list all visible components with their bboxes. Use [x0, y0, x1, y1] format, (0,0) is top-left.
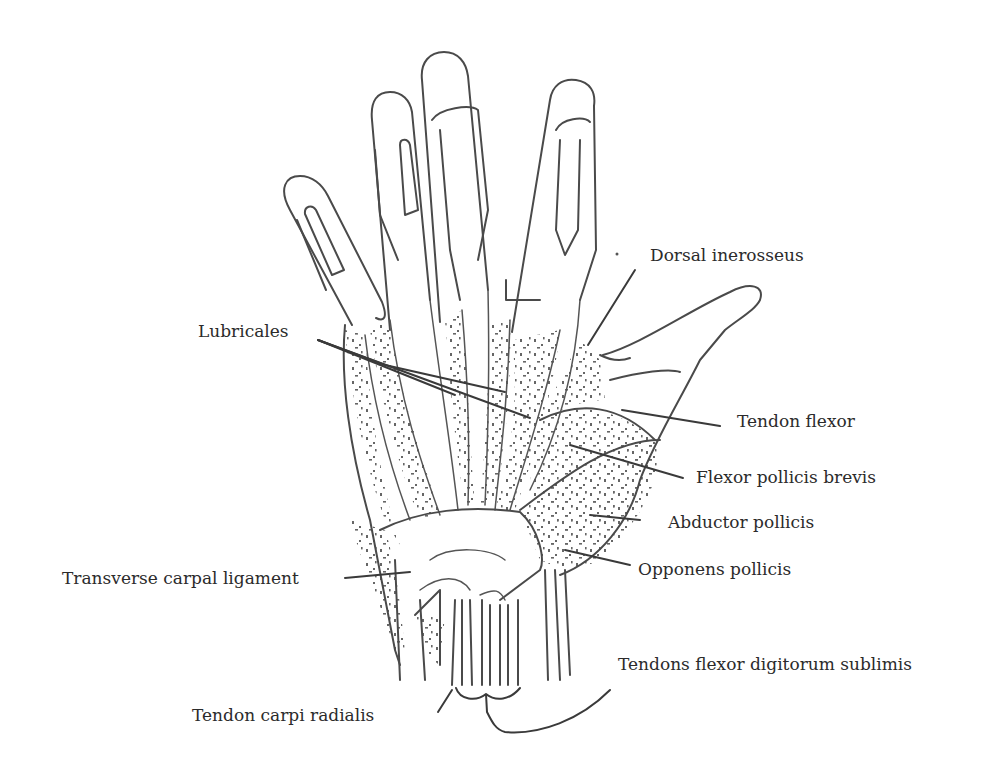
muscle-stipple-regions	[345, 310, 657, 665]
label-dorsal-interosseus: Dorsal inerosseus	[650, 247, 804, 264]
label-opponens-pollicis: Opponens pollicis	[638, 561, 791, 578]
stray-marks	[616, 253, 619, 256]
label-flexor-pollicis-brevis: Flexor pollicis brevis	[696, 469, 876, 486]
label-transverse-carpal-ligament: Transverse carpal ligament	[62, 570, 299, 587]
label-tendon-carpi-radialis: Tendon carpi radialis	[192, 707, 374, 724]
label-tendons-flexor-digitorum-sublimis: Tendons flexor digitorum sublimis	[618, 656, 912, 673]
label-tendon-flexor: Tendon flexor	[737, 413, 855, 430]
label-abductor-pollicis: Abductor pollicis	[668, 514, 814, 531]
label-lubricales: Lubricales	[198, 323, 289, 340]
